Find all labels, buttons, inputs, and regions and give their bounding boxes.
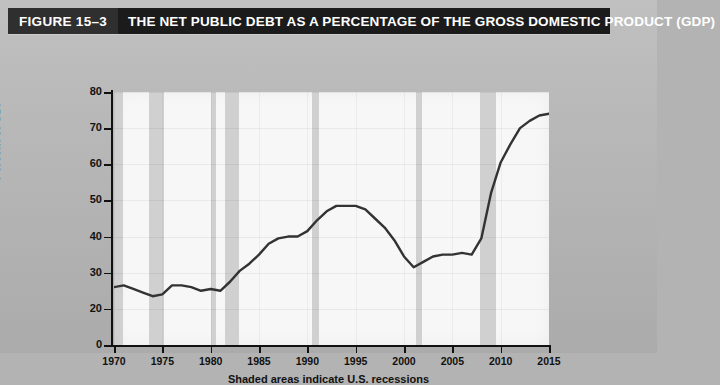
x-axis-tick xyxy=(162,345,164,353)
x-axis-tick-label: 1990 xyxy=(284,355,330,367)
y-axis-tick-label: 60 xyxy=(48,157,102,169)
x-axis-tick xyxy=(549,345,551,353)
y-axis-title: Percent of GDP xyxy=(0,99,2,180)
y-axis-tick-label: 20 xyxy=(48,302,102,314)
y-axis-tick-label: 80 xyxy=(48,85,102,97)
x-axis-tick xyxy=(501,345,503,353)
x-axis-tick-label: 2015 xyxy=(526,355,572,367)
y-axis-tick xyxy=(104,200,113,202)
chart-container: Percent of GDP 020304050607080 197019751… xyxy=(0,40,657,353)
plot-area xyxy=(114,92,549,345)
chart-caption: Shaded areas indicate U.S. recessions xyxy=(0,373,657,385)
x-axis-tick-label: 1970 xyxy=(91,355,137,367)
x-axis-tick xyxy=(307,345,309,353)
y-axis-tick xyxy=(104,345,113,347)
y-axis-tick-label: 30 xyxy=(48,266,102,278)
x-axis-tick-label: 1985 xyxy=(236,355,282,367)
y-axis-tick xyxy=(104,273,113,275)
x-axis-tick-label: 2000 xyxy=(381,355,427,367)
figure-header: FIGURE 15–3 THE NET PUBLIC DEBT AS A PER… xyxy=(8,8,610,34)
x-axis-tick xyxy=(259,345,261,353)
x-axis-tick xyxy=(404,345,406,353)
x-axis-line xyxy=(111,345,551,347)
x-axis-tick xyxy=(452,345,454,353)
figure-title: THE NET PUBLIC DEBT AS A PERCENTAGE OF T… xyxy=(118,8,720,34)
x-axis-tick xyxy=(356,345,358,353)
x-axis-tick-label: 2010 xyxy=(478,355,524,367)
y-axis-tick xyxy=(104,92,113,94)
figure-number-tag: FIGURE 15–3 xyxy=(8,8,118,34)
y-axis-tick-label: 0 xyxy=(48,338,102,350)
debt-line-series xyxy=(114,92,549,345)
y-axis-tick xyxy=(104,128,113,130)
y-axis-tick xyxy=(104,309,113,311)
y-axis-tick xyxy=(104,237,113,239)
y-axis-tick-label: 70 xyxy=(48,121,102,133)
x-axis-tick-label: 2005 xyxy=(429,355,475,367)
x-axis-tick xyxy=(211,345,213,353)
x-axis-tick-label: 1975 xyxy=(139,355,185,367)
y-axis-tick-label: 40 xyxy=(48,230,102,242)
x-axis-tick xyxy=(114,345,116,353)
y-axis-tick-label: 50 xyxy=(48,193,102,205)
x-axis-tick-label: 1995 xyxy=(333,355,379,367)
y-axis-tick xyxy=(104,164,113,166)
x-axis-tick-label: 1980 xyxy=(188,355,234,367)
